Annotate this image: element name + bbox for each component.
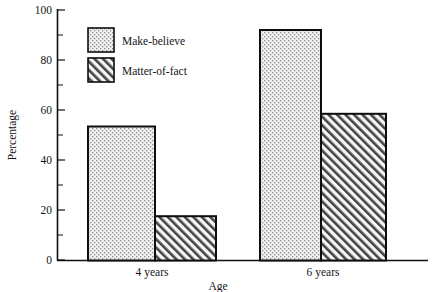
y-tick-label-80: 80 <box>41 54 53 66</box>
bar-6-years-make-believe <box>260 30 321 261</box>
y-tick-label-20: 20 <box>41 204 53 216</box>
y-tick-label-60: 60 <box>41 104 53 116</box>
y-axis-title: Percentage <box>6 110 19 160</box>
bar-4-years-matter-of-fact <box>155 216 216 260</box>
y-tick-label-40: 40 <box>41 154 53 166</box>
y-tick-label-0: 0 <box>46 254 52 266</box>
legend-label-make-believe: Make-believe <box>122 35 185 47</box>
x-category-label-4-years: 4 years <box>136 266 169 279</box>
bar-6-years-matter-of-fact <box>321 114 386 261</box>
x-axis-title: Age <box>208 280 227 292</box>
legend-swatch-matter-of-fact <box>88 58 114 82</box>
y-tick-label-100: 100 <box>35 4 53 16</box>
legend-swatch-make-believe <box>88 28 114 52</box>
x-category-label-6-years: 6 years <box>307 266 340 279</box>
legend-label-matter-of-fact: Matter-of-fact <box>122 65 188 77</box>
bar-chart-figure: 100 80 60 40 20 0 Percentage 4 years 6 y… <box>0 0 435 292</box>
chart-canvas: 100 80 60 40 20 0 Percentage 4 years 6 y… <box>0 0 435 292</box>
bar-4-years-make-believe <box>88 127 155 261</box>
